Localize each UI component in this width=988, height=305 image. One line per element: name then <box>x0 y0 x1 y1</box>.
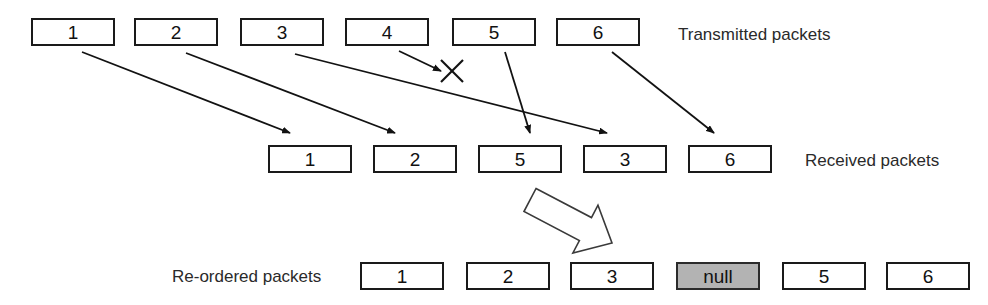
arrow-pkt-3 <box>295 54 607 133</box>
packet-label: 3 <box>607 267 618 286</box>
received-packets-label: Received packets <box>805 152 939 169</box>
reordered-packet-null: null <box>676 262 760 290</box>
reordered-packet-2: 2 <box>466 262 550 290</box>
packet-label: 6 <box>593 23 604 42</box>
connector-lines <box>82 51 714 133</box>
transmitted-packet-6: 6 <box>556 18 640 46</box>
packet-label: null <box>703 267 733 286</box>
reordered-packet-6: 6 <box>886 262 970 290</box>
arrow-pkt-1 <box>82 52 290 133</box>
arrow-pkt-2 <box>186 53 395 133</box>
packet-label: 2 <box>171 23 182 42</box>
arrow-pkt-4-lost <box>399 51 441 71</box>
packet-label: 1 <box>397 267 408 286</box>
packet-label: 2 <box>503 267 514 286</box>
received-packet-3: 3 <box>583 145 667 173</box>
received-packet-2: 2 <box>373 145 457 173</box>
packet-label: 1 <box>68 23 79 42</box>
reorder-block-arrow <box>524 188 612 252</box>
packet-label: 1 <box>305 150 316 169</box>
packet-label: 6 <box>725 150 736 169</box>
transmitted-packet-5: 5 <box>452 18 536 46</box>
reordered-packet-5: 5 <box>782 262 866 290</box>
packet-reordering-diagram: 123456 Transmitted packets 12536 Receive… <box>0 0 988 305</box>
packet-label: 3 <box>620 150 631 169</box>
reorder-block-arrow-icon <box>524 188 612 252</box>
arrow-pkt-5 <box>505 52 530 133</box>
packet-label: 5 <box>515 150 526 169</box>
packet-label: 6 <box>923 267 934 286</box>
transmitted-packet-1: 1 <box>31 18 115 46</box>
reordered-packets-label: Re-ordered packets <box>172 268 321 285</box>
transmitted-packets-label: Transmitted packets <box>678 26 830 43</box>
transmitted-packet-3: 3 <box>240 18 324 46</box>
packet-label: 4 <box>382 23 393 42</box>
transmitted-packet-4: 4 <box>345 18 429 46</box>
received-packet-6: 6 <box>688 145 772 173</box>
packet-label: 5 <box>819 267 830 286</box>
packet-loss-x-icon <box>441 60 463 82</box>
packet-label: 2 <box>410 150 421 169</box>
transmitted-packet-2: 2 <box>134 18 218 46</box>
reordered-packet-3: 3 <box>570 262 654 290</box>
packet-label: 5 <box>489 23 500 42</box>
arrow-pkt-6 <box>612 52 714 133</box>
reordered-packet-1: 1 <box>360 262 444 290</box>
received-packet-1: 1 <box>268 145 352 173</box>
received-packet-5: 5 <box>478 145 562 173</box>
packet-label: 3 <box>277 23 288 42</box>
